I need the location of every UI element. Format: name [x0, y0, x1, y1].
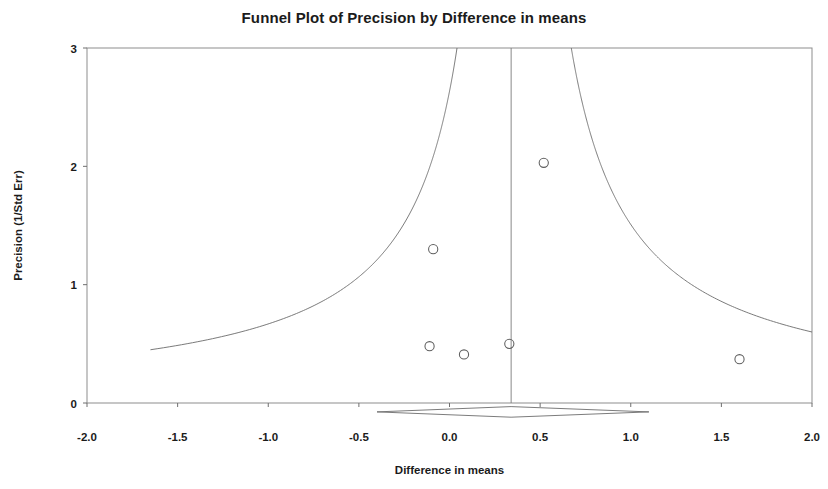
funnel-curve-right	[571, 48, 812, 332]
study-point-2	[459, 350, 468, 359]
y-tick-label-0: 0	[71, 398, 77, 410]
study-point-0	[429, 245, 438, 254]
x-tick-label-6: 1.0	[623, 431, 639, 443]
x-tick-label-4: 0.0	[442, 431, 458, 443]
x-axis-tick-labels: -2.0-1.5-1.0-0.50.00.51.01.52.0	[77, 431, 820, 443]
y-tick-label-3: 3	[71, 43, 77, 55]
plot-frame	[87, 48, 812, 403]
y-tick-label-2: 2	[71, 161, 77, 173]
study-point-4	[539, 158, 548, 167]
summary-effect-diamond	[377, 407, 649, 418]
y-axis-title: Precision (1/Std Err)	[12, 170, 24, 281]
funnel-plot-figure: -2.0-1.5-1.0-0.50.00.51.01.52.0 0123 Dif…	[0, 0, 828, 489]
plot-border	[87, 48, 812, 403]
y-tick-label-1: 1	[71, 279, 78, 291]
study-point-5	[735, 355, 744, 364]
x-tick-label-7: 1.5	[713, 431, 730, 443]
x-axis-title: Difference in means	[395, 464, 504, 476]
study-data-points	[425, 158, 744, 364]
x-tick-label-1: -1.5	[168, 431, 188, 443]
funnel-confidence-curves	[150, 48, 812, 350]
summary-diamond-shape	[377, 407, 649, 418]
y-axis-tick-labels: 0123	[71, 43, 78, 410]
x-tick-label-0: -2.0	[77, 431, 97, 443]
x-tick-label-8: 2.0	[804, 431, 820, 443]
study-point-3	[505, 339, 514, 348]
x-tick-label-5: 0.5	[532, 431, 549, 443]
x-tick-label-2: -1.0	[258, 431, 278, 443]
x-tick-label-3: -0.5	[349, 431, 369, 443]
funnel-curve-left	[150, 48, 457, 350]
study-point-1	[425, 342, 434, 351]
